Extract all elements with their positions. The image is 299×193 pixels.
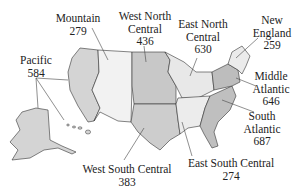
label-west-south-central: West South Central 383 [74,163,180,188]
label-south-atlantic: South Atlantic 687 [234,110,290,148]
region-west-south-central [131,104,180,150]
label-pacific: Pacific 584 [14,54,58,79]
region-south-atlantic [200,86,236,148]
label-middle-atlantic: Middle Atlantic 646 [244,70,298,108]
label-east-south-central: East South Central 274 [178,157,284,182]
label-new-england: New England 259 [246,14,298,52]
region-alaska [10,108,76,160]
label-mountain: Mountain 279 [50,12,106,37]
region-hawaii [67,124,91,134]
region-west-north-central [132,52,176,104]
label-east-north-central: East North Central 630 [168,18,238,56]
